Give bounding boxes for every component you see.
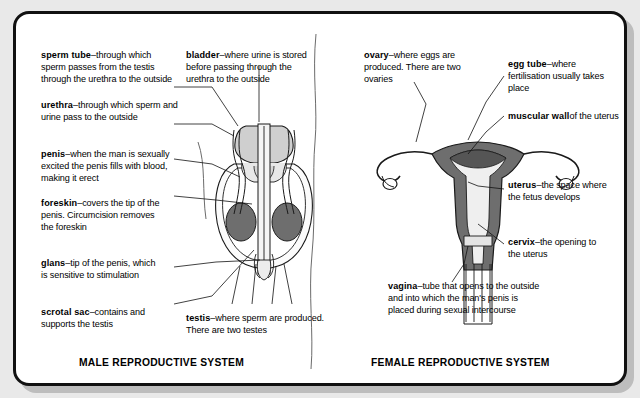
uterus-fundus-shape: [450, 150, 506, 168]
female-leader-lines: [414, 76, 504, 282]
sperm-tube-right-b: [283, 130, 289, 214]
testis-right-shape: [272, 203, 302, 241]
cervix-shape: [464, 236, 492, 246]
label-term: scrotal sac: [41, 307, 90, 317]
male-anatomy: [216, 124, 313, 280]
label-description: of the uterus: [569, 111, 618, 121]
male-system-caption: MALE REPRODUCTIVE SYSTEM: [79, 357, 244, 368]
egg-tube-right-shape: [524, 152, 579, 182]
label-term: ovary: [364, 50, 389, 60]
ovary-left-shape: [383, 179, 397, 190]
label-penis: penis–when the man is sexually excited t…: [41, 148, 181, 184]
glans-shape: [257, 260, 271, 280]
label-term: egg tube: [508, 59, 547, 69]
label-term: penis: [41, 149, 65, 159]
label-vagina: vagina–tube that opens to the outside an…: [388, 280, 544, 316]
bladder-shape: [235, 126, 293, 163]
label-sperm-tube: sperm tube–through which sperm passes fr…: [41, 49, 177, 85]
ovary-left-ligament: [382, 176, 394, 187]
label-term: uterus: [508, 180, 536, 190]
label-testis: testis–where sperm are produced. There a…: [186, 312, 338, 336]
foreskin-shape-b: [268, 254, 274, 278]
egg-tube-left-shape: [377, 152, 432, 182]
label-urethra: urethra–through which sperm and urine pa…: [41, 99, 181, 123]
label-ovary: ovary–where eggs are produced. There are…: [364, 49, 462, 85]
label-term: glans: [41, 258, 65, 268]
diagram-page: sperm tube–through which sperm passes fr…: [0, 0, 640, 398]
label-foreskin: foreskin–covers the tip of the penis. Ci…: [41, 197, 165, 233]
label-term: testis: [186, 313, 210, 323]
label-term: vagina: [388, 281, 417, 291]
seminal-vesicle-shape: [254, 166, 274, 181]
diagram-card: sperm tube–through which sperm passes fr…: [13, 11, 627, 386]
label-term: bladder: [186, 50, 220, 60]
sperm-tube-left-b: [239, 130, 245, 214]
testis-left-shape: [226, 203, 256, 241]
label-muscular-wall: muscular wallof the uterus: [508, 110, 620, 122]
penis-shaft-shape: [258, 124, 270, 274]
prostate-shape: [242, 163, 287, 182]
label-term: foreskin: [41, 198, 77, 208]
uterus-cavity-shape: [450, 150, 506, 264]
label-egg-tube: egg tube–where fertilisation usually tak…: [508, 58, 616, 94]
label-term: cervix: [508, 237, 535, 247]
sperm-tube-right: [289, 130, 295, 214]
label-uterus: uterus–the space where the fetus develop…: [508, 179, 608, 203]
label-cervix: cervix–the opening to the uterus: [508, 236, 600, 260]
female-system-caption: FEMALE REPRODUCTIVE SYSTEM: [371, 357, 550, 368]
label-scrotal-sac: scrotal sac–contains and supports the te…: [41, 306, 177, 330]
label-glans: glans–tip of the penis, which is sensiti…: [41, 257, 163, 281]
label-term: muscular wall: [508, 111, 569, 121]
label-term: urethra: [41, 100, 73, 110]
scrotal-sac-lining: [223, 168, 306, 261]
label-bladder: bladder–where urine is stored before pas…: [186, 49, 310, 85]
label-term: sperm tube: [41, 50, 91, 60]
male-leader-lines: [174, 66, 292, 304]
foreskin-shape: [254, 254, 260, 278]
sperm-tube-left: [233, 130, 239, 214]
scrotal-sac-shape: [216, 164, 313, 268]
